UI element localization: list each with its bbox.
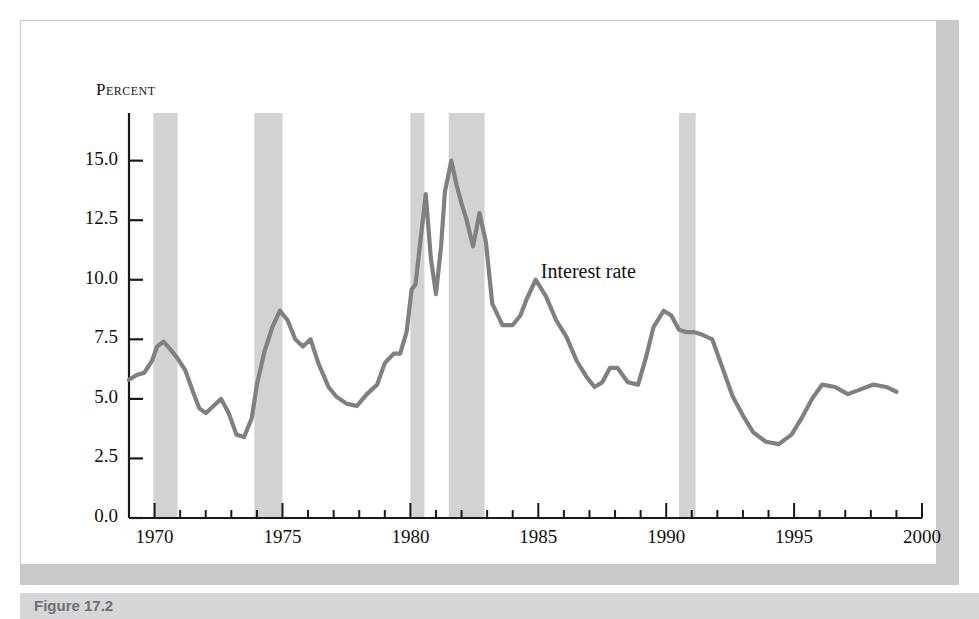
y-axis-tick-label: 0.0 [56,505,118,527]
interest-rate-line [129,161,896,445]
y-axis-tick-label: 12.5 [56,207,118,229]
chart-plot-area: Percent 0.02.55.07.510.012.515.0 1970197… [0,0,979,619]
y-axis-tick-label: 2.5 [56,445,118,467]
y-axis-tick-label: 10.0 [56,267,118,289]
x-axis-tick-label: 1990 [626,526,706,548]
x-axis-tick-label: 1995 [754,526,834,548]
recession-band [679,113,696,518]
axes-group [129,113,922,518]
figure-caption-strip: Figure 17.2 [20,593,979,619]
x-axis-tick-label: 1970 [115,526,195,548]
recession-band [410,113,424,518]
recession-bands-group [153,113,695,518]
recession-band [153,113,177,518]
series-path [129,161,896,445]
y-axis-tick-label: 7.5 [56,326,118,348]
x-axis-tick-label: 1980 [370,526,450,548]
series-annotation-label: Interest rate [541,260,636,283]
x-axis-tick-label: 2000 [882,526,962,548]
y-axis-tick-label: 5.0 [56,386,118,408]
y-axis-title: Percent [96,80,156,100]
figure-caption: Figure 17.2 [34,597,113,614]
x-axis-tick-label: 1975 [242,526,322,548]
x-axis-tick-label: 1985 [498,526,578,548]
figure-root: Percent 0.02.55.07.510.012.515.0 1970197… [0,0,979,619]
y-axis-tick-label: 15.0 [56,148,118,170]
